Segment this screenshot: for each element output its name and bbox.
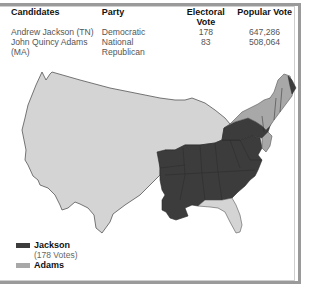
legend-item-jackson: Jackson [16,240,77,250]
adams-swatch [16,263,30,268]
jackson-swatch [16,243,30,248]
legend-item-adams: Adams [16,260,77,270]
florida-territory [198,198,242,233]
legend-sublabel: (178 Votes) [34,250,77,260]
map-legend: Jackson (178 Votes) Adams [16,240,77,270]
legend-label: Adams [34,260,64,270]
legend-label: Jackson [34,240,70,250]
